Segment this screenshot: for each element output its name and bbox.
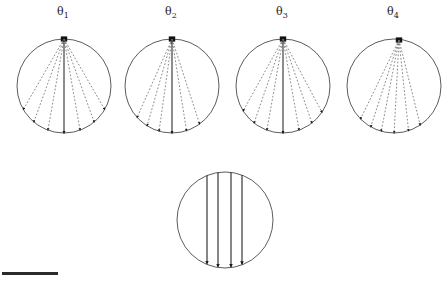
figure-canvas: θ1 θ2 θ3 θ4 — [0, 0, 446, 285]
ray-diagram-svg — [0, 0, 446, 285]
ray-5 — [283, 39, 299, 130]
circle-boundary — [177, 172, 273, 268]
ray-6 — [399, 40, 420, 125]
ray-2 — [147, 39, 172, 126]
ray-2 — [254, 39, 283, 123]
ray-7 — [64, 39, 105, 110]
label-theta-3: θ3 — [276, 5, 288, 20]
label-theta-1: θ1 — [57, 5, 69, 20]
ray-5 — [172, 39, 187, 131]
ray-6 — [172, 39, 200, 124]
scale-bar — [2, 272, 58, 275]
ray-5 — [399, 40, 409, 131]
circle-boundary — [347, 39, 441, 133]
ray-1 — [360, 40, 399, 119]
panel-theta3 — [236, 36, 330, 133]
ray-6 — [64, 39, 94, 122]
panel-theta2 — [125, 36, 219, 133]
panel-normal-incidence — [177, 172, 273, 268]
label-theta-2: θ2 — [165, 5, 177, 20]
panel-theta4 — [347, 37, 441, 133]
ray-6 — [283, 39, 312, 123]
ray-3 — [267, 39, 283, 130]
label-theta-4: θ4 — [387, 5, 399, 20]
ray-2 — [371, 40, 399, 127]
ray-1 — [137, 39, 172, 117]
panels-layer — [17, 36, 441, 268]
ray-1 — [23, 39, 64, 110]
ray-2 — [34, 39, 64, 122]
panel-theta1 — [17, 36, 111, 133]
ray-7 — [283, 39, 322, 112]
